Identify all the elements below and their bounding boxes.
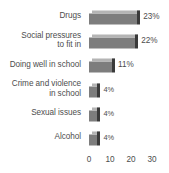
bar-track: 23% <box>84 4 169 28</box>
bar-track: 4% <box>84 101 169 125</box>
bar-front-face <box>89 135 97 146</box>
category-label: Doing well in school <box>0 60 84 69</box>
bar <box>89 132 97 143</box>
bar-front-face <box>89 62 112 73</box>
value-label: 11% <box>118 60 134 69</box>
bar-track: 11% <box>84 52 169 76</box>
x-axis-tick-label: 30 <box>147 155 156 164</box>
chart-row: Sexual issues4% <box>0 101 169 125</box>
bar-side-face <box>135 35 138 49</box>
chart-row: Doing well in school11% <box>0 52 169 76</box>
bar-chart: Drugs23%Social pressures to fit in22%Doi… <box>0 0 169 173</box>
bar <box>89 11 137 22</box>
value-label: 4% <box>103 133 114 142</box>
bar-side-face <box>137 11 140 25</box>
chart-row: Alcohol4% <box>0 125 169 149</box>
bar-side-face <box>97 132 100 146</box>
value-label: 4% <box>103 84 114 93</box>
bar-top-face <box>92 11 140 14</box>
bar-track: 4% <box>84 125 169 149</box>
category-label: Alcohol <box>0 132 84 141</box>
bar-side-face <box>97 83 100 97</box>
bar-front-face <box>89 14 137 25</box>
x-axis-tick-label: 0 <box>87 155 92 164</box>
bar-front-face <box>89 38 135 49</box>
bar <box>89 35 135 46</box>
category-label: Sexual issues <box>0 108 84 117</box>
category-label: Crime and violence in school <box>0 79 84 98</box>
bar-front-face <box>89 110 97 121</box>
value-label: 23% <box>143 12 159 21</box>
x-axis-tick-label: 20 <box>126 155 135 164</box>
x-axis: 0102030 <box>84 155 169 169</box>
bar <box>89 83 97 94</box>
bar <box>89 59 112 70</box>
chart-row: Drugs23% <box>0 4 169 28</box>
bar-track: 22% <box>84 28 169 52</box>
chart-row: Social pressures to fit in22% <box>0 28 169 52</box>
value-label: 4% <box>103 108 114 117</box>
bar-front-face <box>89 86 97 97</box>
category-label: Social pressures to fit in <box>0 31 84 50</box>
bar-side-face <box>112 59 115 73</box>
bar-top-face <box>92 35 138 38</box>
category-label: Drugs <box>0 11 84 20</box>
value-label: 22% <box>141 36 157 45</box>
bar-side-face <box>97 107 100 121</box>
x-axis-tick-label: 10 <box>105 155 114 164</box>
bar-track: 4% <box>84 77 169 101</box>
bar <box>89 107 97 118</box>
chart-row: Crime and violence in school4% <box>0 77 169 101</box>
